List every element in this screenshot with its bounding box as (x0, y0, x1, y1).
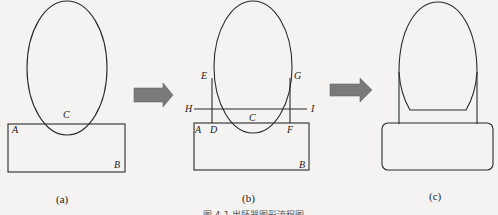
label-g: G (294, 70, 301, 81)
label-d: D (209, 124, 218, 135)
label-a: A (194, 124, 202, 135)
figure-caption: 图 4-1 出胚器图形流程图 (203, 209, 304, 215)
base-rounded-rectangle (382, 123, 493, 170)
label-a: A (11, 124, 19, 135)
caption-b: (b) (242, 192, 255, 205)
panel-c: (c) (382, 2, 493, 203)
label-b: B (114, 159, 120, 170)
base-rectangle (8, 124, 125, 172)
arrow-right-icon (330, 78, 372, 102)
panel-b: E G H I C A D F B (b) (184, 1, 315, 205)
label-b: B (299, 159, 305, 170)
label-c: C (249, 112, 256, 123)
label-h: H (184, 103, 193, 114)
arrow-right-icon (134, 83, 173, 107)
dome-outline (399, 2, 477, 124)
label-c: C (63, 109, 70, 120)
label-f: F (286, 124, 294, 135)
label-e: E (200, 70, 207, 81)
panel-a: C A B (a) (8, 1, 125, 206)
label-i: I (310, 103, 315, 114)
process-diagram: C A B (a) E G H I C A D F B (b) (c) 图 4-… (0, 0, 498, 215)
caption-a: (a) (56, 193, 69, 206)
caption-c: (c) (429, 190, 442, 203)
inner-trapezoid (399, 72, 477, 110)
